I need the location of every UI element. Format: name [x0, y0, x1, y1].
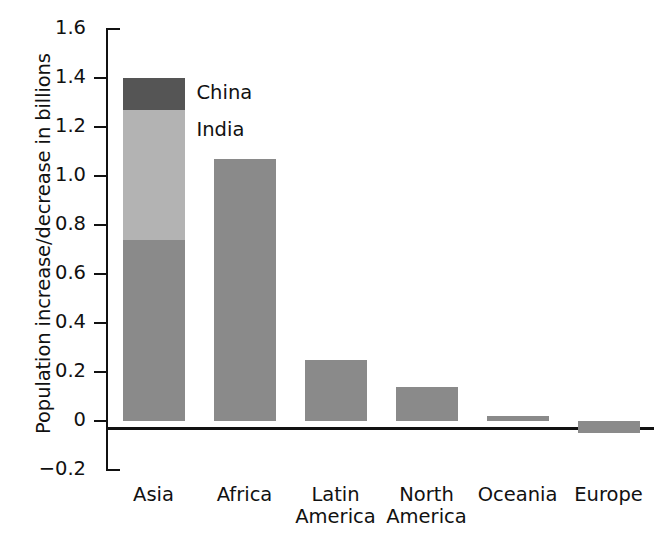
bar-segment: [123, 240, 185, 421]
x-tick-label-line: Oceania: [472, 484, 563, 506]
x-tick-label-line: America: [381, 506, 472, 528]
y-tick-mark: [94, 126, 106, 128]
x-tick-label: Africa: [199, 484, 290, 506]
bar-segment: [487, 416, 549, 421]
bar-segment: [214, 159, 276, 421]
population-change-bar-chart: Population increase/decrease in billions…: [0, 0, 662, 546]
bar-segment: [578, 421, 640, 433]
x-tick-label-line: America: [290, 506, 381, 528]
y-tick-label: −0.2: [0, 457, 86, 480]
y-tick-mark: [94, 273, 106, 275]
x-tick-label: Asia: [108, 484, 199, 506]
x-tick-label-line: Latin: [290, 484, 381, 506]
bar-segment: [123, 110, 185, 240]
x-tick-label: NorthAmerica: [381, 484, 472, 528]
x-tick-label: Europe: [563, 484, 654, 506]
y-tick-label: 1.2: [0, 114, 86, 137]
series-annotation-india: India: [197, 118, 245, 141]
y-tick-mark: [94, 420, 106, 422]
bars-layer: [108, 29, 654, 470]
x-tick-label: Oceania: [472, 484, 563, 506]
y-tick-mark: [94, 224, 106, 226]
y-tick-label: 1.6: [0, 16, 86, 39]
y-tick-mark: [94, 175, 106, 177]
series-annotation-china: China: [197, 81, 253, 104]
bar-segment: [396, 387, 458, 421]
y-axis-title: Population increase/decrease in billions: [32, 34, 55, 454]
x-tick-label: LatinAmerica: [290, 484, 381, 528]
bar-segment: [305, 360, 367, 421]
x-tick-label-line: Asia: [108, 484, 199, 506]
bar-segment: [123, 78, 185, 110]
y-tick-label: 0.2: [0, 359, 86, 382]
x-tick-label-line: Africa: [199, 484, 290, 506]
y-tick-label: 1.4: [0, 65, 86, 88]
y-tick-label: 0.6: [0, 261, 86, 284]
y-tick-label: 0: [0, 408, 86, 431]
y-tick-label: 1.0: [0, 163, 86, 186]
y-tick-mark: [94, 322, 106, 324]
x-tick-label-line: North: [381, 484, 472, 506]
x-tick-label-line: Europe: [563, 484, 654, 506]
y-tick-label: 0.4: [0, 310, 86, 333]
y-tick-mark: [94, 371, 106, 373]
y-tick-label: 0.8: [0, 212, 86, 235]
y-tick-mark: [94, 77, 106, 79]
